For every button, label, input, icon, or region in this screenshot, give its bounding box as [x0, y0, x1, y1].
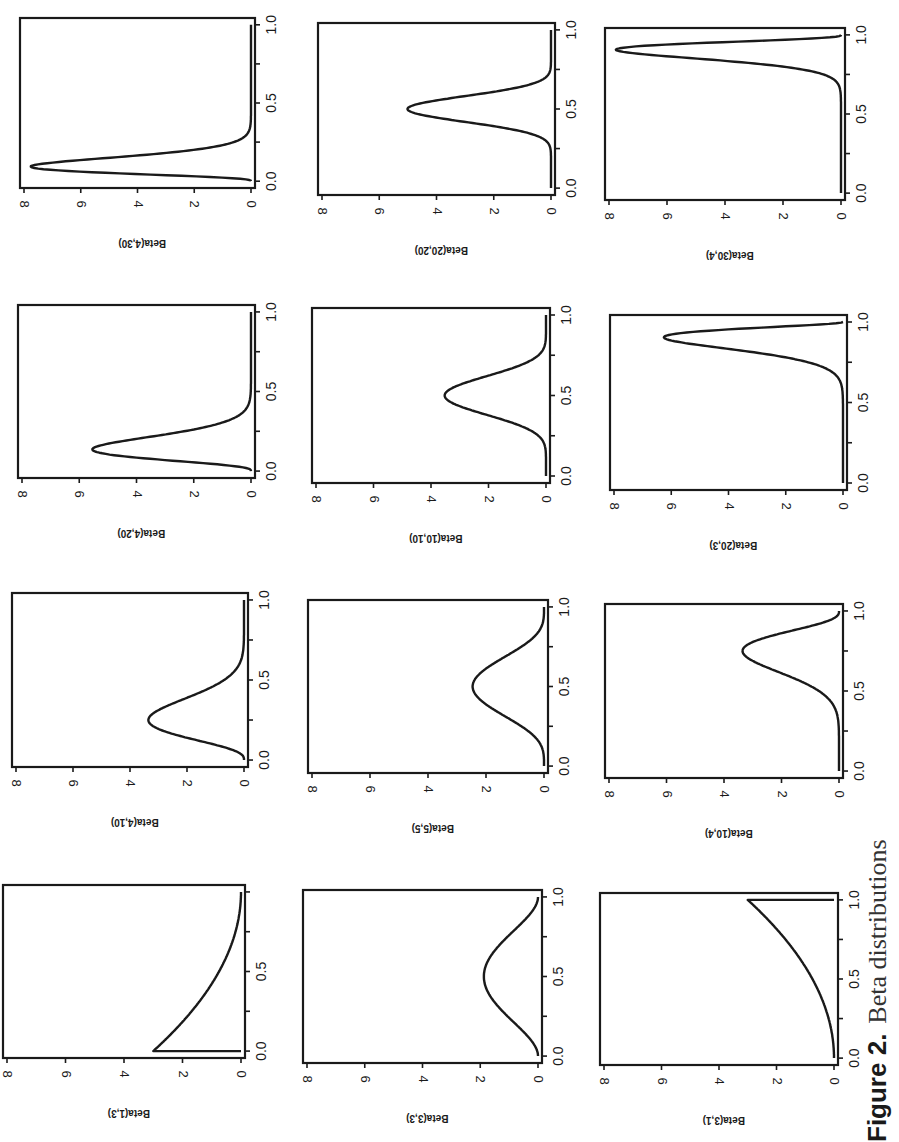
- plot-frame: [610, 315, 847, 490]
- y-tick-label: 0: [244, 200, 259, 207]
- y-tick-label: 0: [537, 785, 552, 792]
- y-tick-label: 0: [544, 207, 559, 214]
- plot-frame: [600, 893, 838, 1065]
- x-tick-label: 0.5: [550, 967, 566, 987]
- x-tick-label: 0.0: [855, 473, 871, 493]
- x-tick-label: 0.0: [256, 750, 272, 770]
- y-tick-label: 6: [66, 779, 81, 786]
- density-curve: [616, 35, 841, 193]
- density-curve: [743, 611, 840, 771]
- y-tick-label: 8: [15, 490, 30, 497]
- y-tick-label: 2: [776, 212, 791, 219]
- y-tick-label: 8: [602, 212, 617, 219]
- y-tick-label: 8: [17, 200, 32, 207]
- y-tick-label: 4: [717, 790, 732, 797]
- plot-frame: [3, 885, 245, 1058]
- panel-ylabel: Beta(4,10): [111, 817, 159, 828]
- y-tick-label: 0: [531, 1075, 546, 1082]
- x-tick-label: 1.0: [558, 305, 574, 325]
- y-tick-label: 0: [836, 502, 851, 509]
- x-tick-label: 1.0: [846, 890, 862, 910]
- y-tick-label: 8: [0, 1070, 15, 1077]
- density-curve: [484, 897, 538, 1056]
- x-tick-label: 0.0: [558, 466, 574, 486]
- density-curve: [445, 315, 546, 476]
- y-tick-label: 0: [234, 1070, 249, 1077]
- x-tick-label: 0.5: [263, 382, 279, 402]
- x-tick-label: 0.0: [253, 1041, 269, 1061]
- y-tick-label: 6: [664, 502, 679, 509]
- panel-ylabel: Beta(3,3): [406, 1113, 448, 1124]
- panel-ylabel: Beta(1,3): [108, 1108, 150, 1119]
- y-tick-label: 0: [539, 495, 554, 502]
- y-tick-label: 2: [775, 790, 790, 797]
- x-tick-label: 0.0: [853, 183, 869, 203]
- caption-text: Beta distributions: [863, 839, 892, 1023]
- beta-distributions-figure: 024680.00.51.0Beta(4,30)024680.00.51.0Be…: [0, 0, 899, 1142]
- plot-frame: [605, 604, 843, 778]
- x-tick-label: 1.0: [853, 25, 869, 45]
- y-tick-label: 6: [655, 1077, 670, 1084]
- x-tick-label: 1.0: [263, 302, 279, 322]
- x-tick-label: 1.0: [563, 20, 579, 40]
- x-tick-label: 0.0: [563, 178, 579, 198]
- plot-frame: [308, 600, 548, 773]
- y-tick-label: 8: [602, 790, 617, 797]
- density-curve: [748, 900, 834, 1058]
- y-tick-label: 4: [430, 207, 445, 214]
- density-curve: [408, 30, 552, 188]
- y-tick-label: 4: [424, 495, 439, 502]
- y-tick-label: 8: [597, 1077, 612, 1084]
- chart-panel: 024680.00.51.0Beta(5,5): [305, 597, 572, 834]
- chart-panel: 024680.00.51.0Beta(4,10): [9, 590, 272, 828]
- x-tick-label: 0.5: [846, 969, 862, 989]
- y-tick-label: 2: [487, 207, 502, 214]
- density-curve: [473, 607, 544, 766]
- x-tick-label: 1.0: [851, 601, 867, 621]
- caption-label: Figure 2.: [862, 1034, 892, 1142]
- y-tick-label: 6: [367, 495, 382, 502]
- panel-ylabel: Beta(4,20): [117, 528, 165, 539]
- x-tick-label: 0.0: [846, 1048, 862, 1068]
- y-tick-label: 2: [779, 502, 794, 509]
- x-tick-label: 0.5: [851, 681, 867, 701]
- panel-ylabel: Beta(10,10): [409, 533, 462, 544]
- chart-panel: 024680.00.51.0Beta(10,10): [309, 305, 574, 544]
- panel-ylabel: Beta(20,3): [709, 540, 757, 551]
- plot-frame: [18, 305, 255, 478]
- density-curve: [92, 312, 251, 471]
- plot-frame: [312, 308, 550, 483]
- panel-ylabel: Beta(5,5): [412, 823, 454, 834]
- x-tick-label: 0.0: [550, 1046, 566, 1066]
- y-tick-label: 2: [770, 1077, 785, 1084]
- x-tick-label: 0.5: [563, 99, 579, 119]
- y-tick-label: 8: [9, 779, 24, 786]
- y-tick-label: 0: [827, 1077, 842, 1084]
- x-tick-label: 1.0: [263, 15, 279, 35]
- plot-frame: [318, 23, 555, 195]
- y-tick-label: 8: [300, 1075, 315, 1082]
- x-tick-label: 1.0: [556, 597, 572, 617]
- y-tick-label: 2: [176, 1070, 191, 1077]
- y-tick-label: 4: [123, 779, 138, 786]
- chart-panel: 024680.00.51.0Beta(4,20): [15, 302, 279, 539]
- y-tick-label: 0: [834, 212, 849, 219]
- plot-frame: [303, 890, 542, 1063]
- y-tick-label: 8: [309, 495, 324, 502]
- y-tick-label: 0: [832, 790, 847, 797]
- y-tick-label: 4: [117, 1070, 132, 1077]
- x-tick-label: 0.5: [263, 93, 279, 113]
- x-tick-label: 0.5: [256, 670, 272, 690]
- x-tick-label: 0.5: [556, 677, 572, 697]
- panel-ylabel: Beta(20,20): [415, 245, 468, 256]
- y-tick-label: 6: [72, 490, 87, 497]
- y-tick-label: 2: [187, 200, 202, 207]
- panel-ylabel: Beta(30,4): [706, 250, 754, 261]
- chart-panel: 024680.00.51.0Beta(20,20): [315, 20, 579, 256]
- x-tick-label: 1.0: [550, 887, 566, 907]
- y-tick-label: 8: [305, 785, 320, 792]
- y-tick-label: 6: [660, 790, 675, 797]
- x-tick-label: 0.5: [253, 962, 269, 982]
- y-tick-label: 6: [372, 207, 387, 214]
- x-tick-label: 1.0: [855, 312, 871, 332]
